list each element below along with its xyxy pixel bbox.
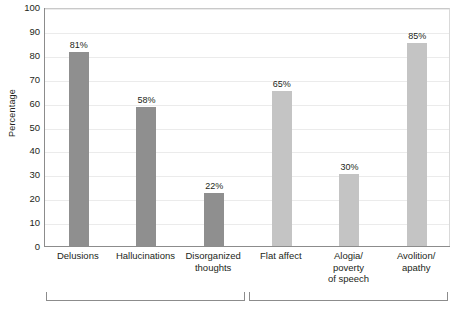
bar[interactable] xyxy=(69,52,89,246)
y-axis-tick-label: 70 xyxy=(4,75,40,85)
bar[interactable] xyxy=(272,91,292,246)
bar-value-label: 58% xyxy=(137,95,155,106)
y-axis-tick-label: 10 xyxy=(4,218,40,228)
bar-value-label: 81% xyxy=(70,40,88,51)
y-axis-tick-label: 50 xyxy=(4,123,40,133)
x-axis-label-line: Avolition/ xyxy=(370,250,461,262)
bar-value-label: 30% xyxy=(340,162,358,173)
y-axis-tick-label: 100 xyxy=(4,3,40,13)
bar-slot: 81% xyxy=(45,7,113,246)
y-axis-tick-label: 60 xyxy=(4,99,40,109)
x-axis-label-line: of speech xyxy=(303,273,395,285)
y-axis-tick-label: 20 xyxy=(4,194,40,204)
y-axis-tick-labels: 1009080706050403020100 xyxy=(0,8,40,247)
bar-slot: 65% xyxy=(248,7,316,246)
bar-slot: 22% xyxy=(180,7,248,246)
bar-slot: 85% xyxy=(383,7,451,246)
y-axis-tick-label: 40 xyxy=(4,146,40,156)
bar[interactable] xyxy=(407,43,427,246)
x-axis-label-line: thoughts xyxy=(167,262,259,274)
bar-slot: 30% xyxy=(316,7,384,246)
bar-value-label: 65% xyxy=(273,79,291,90)
group-bracket xyxy=(249,292,448,301)
y-axis-tick-label: 30 xyxy=(4,170,40,180)
bar-value-label: 85% xyxy=(408,31,426,42)
bar[interactable] xyxy=(339,174,359,246)
bar[interactable] xyxy=(136,107,156,246)
x-axis-category-labels: DelusionsHallucinationsDisorganizedthoug… xyxy=(44,250,450,296)
x-axis-label-line: apathy xyxy=(370,262,461,274)
plot-area: 81%58%22%65%30%85% xyxy=(44,8,450,247)
y-axis-tick-label: 80 xyxy=(4,51,40,61)
bar[interactable] xyxy=(204,193,224,246)
y-axis-tick-label: 90 xyxy=(4,27,40,37)
bar-value-label: 22% xyxy=(205,181,223,192)
bar-chart: Percentage 1009080706050403020100 81%58%… xyxy=(0,0,461,310)
bar-slot: 58% xyxy=(113,7,181,246)
group-bracket xyxy=(46,292,245,301)
x-axis-line xyxy=(44,246,450,247)
x-axis-category-label: Avolition/apathy xyxy=(370,250,461,273)
